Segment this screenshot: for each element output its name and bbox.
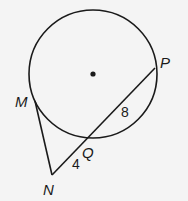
point-label-q: Q <box>82 144 94 161</box>
point-label-m: M <box>15 93 28 110</box>
point-label-p: P <box>160 54 170 71</box>
tangent-segment-mn <box>35 101 52 175</box>
point-label-n: N <box>43 181 54 198</box>
geometry-diagram: M N Q P 4 8 <box>0 0 188 201</box>
center-dot <box>90 71 95 76</box>
segment-length-nq: 4 <box>72 156 80 172</box>
secant-segment-np <box>52 68 155 175</box>
segment-length-qp: 8 <box>121 104 129 120</box>
